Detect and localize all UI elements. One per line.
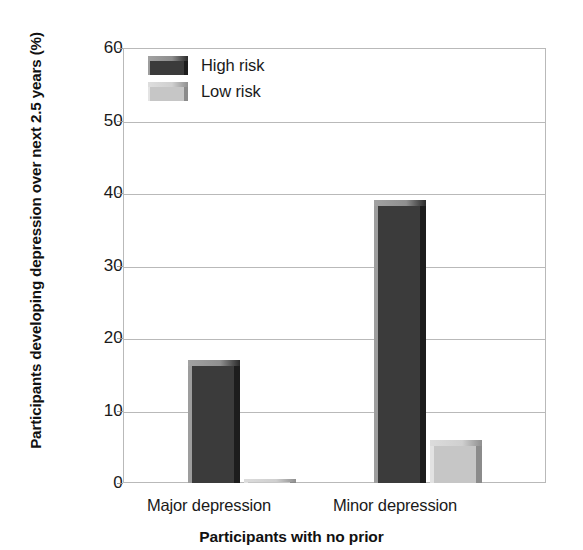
- legend-item-low-risk: Low risk: [148, 78, 328, 104]
- y-axis-ticks: 0 10 20 30 40 50 60: [60, 48, 123, 483]
- plot-area: [123, 48, 546, 483]
- x-axis-title: Participants with no prior: [0, 528, 583, 546]
- y-axis-title: Participants developing depression over …: [27, 6, 44, 476]
- legend-label-low-risk: Low risk: [201, 82, 261, 101]
- legend-swatch-low-risk-icon: [148, 82, 188, 101]
- x-tick-label-minor-depression: Minor depression: [305, 496, 485, 515]
- legend-item-high-risk: High risk: [148, 52, 328, 78]
- x-tick-label-major-depression: Major depression: [119, 496, 299, 515]
- legend: High risk Low risk: [148, 52, 328, 104]
- gridline-30: [124, 267, 545, 268]
- gridline-40: [124, 194, 545, 195]
- gridline-50: [124, 122, 545, 123]
- bar-chart-figure: Participants developing depression over …: [0, 0, 583, 550]
- legend-swatch-high-risk-icon: [148, 56, 188, 75]
- legend-label-high-risk: High risk: [201, 56, 264, 75]
- y-tick-mark-0: [117, 483, 123, 484]
- gridline-20: [124, 339, 545, 340]
- gridline-10: [124, 412, 545, 413]
